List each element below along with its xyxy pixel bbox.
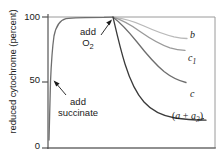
curve-label-c: c xyxy=(190,88,194,99)
add-succinate-arrow-head xyxy=(54,80,60,86)
annotation-add-succinate: add succinate xyxy=(40,96,116,118)
y-tick-label-50: 50 xyxy=(12,74,40,85)
curve-c xyxy=(113,17,186,82)
y-axis-title: reduced cytochrome (percent) xyxy=(7,2,18,142)
cytochrome-reduction-figure: reduced cytochrome (percent) 100 50 0 ad… xyxy=(0,0,223,161)
y-tick-label-100: 100 xyxy=(12,11,40,22)
curve-label-b: b xyxy=(190,29,195,40)
annotation-add-o2-line1: add xyxy=(80,26,96,37)
annotation-add-succinate-line1: add xyxy=(70,96,86,107)
curve-c1 xyxy=(113,17,185,50)
annotation-add-o2: add O2 xyxy=(66,26,110,52)
curve-label-a-plus-a3: (a + a3) xyxy=(172,110,203,124)
annotation-add-o2-line2: O2 xyxy=(82,37,94,48)
y-tick-label-0: 0 xyxy=(12,140,40,151)
add-o2-arrow-head xyxy=(106,20,112,26)
annotation-add-succinate-line2: succinate xyxy=(58,107,98,118)
curve-label-c1: c1 xyxy=(188,52,196,66)
